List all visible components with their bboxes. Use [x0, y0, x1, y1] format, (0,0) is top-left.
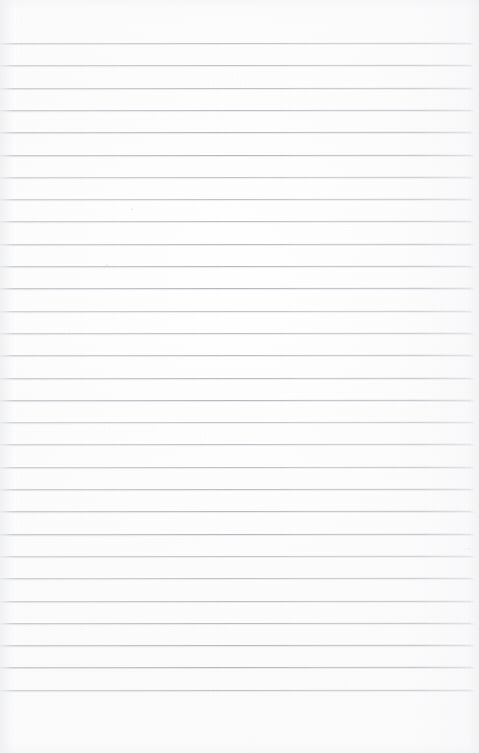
scanned-page — [0, 0, 479, 753]
paper-background — [0, 0, 479, 753]
